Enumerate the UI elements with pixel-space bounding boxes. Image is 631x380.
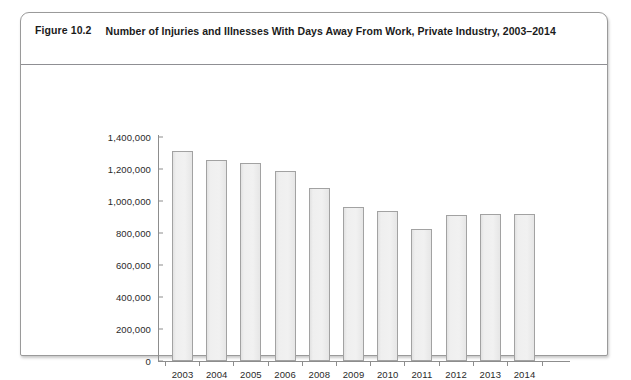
bar-2013 — [480, 214, 501, 361]
y-axis-tick-label: 600,000 — [116, 260, 158, 271]
x-axis-tick-label: 2012 — [445, 369, 467, 380]
x-axis-tick-mark — [542, 361, 543, 366]
x-axis-tick-mark — [404, 361, 405, 366]
x-axis-tick-label: 2003 — [172, 369, 194, 380]
bar-2014 — [514, 214, 535, 361]
x-axis-tick-mark — [473, 361, 474, 366]
x-axis-tick-mark — [302, 361, 303, 366]
bar-2005 — [240, 163, 261, 361]
plot-area: 0200,000400,000600,000800,0001,000,0001,… — [158, 137, 568, 361]
x-axis-tick-label: 2006 — [274, 369, 296, 380]
x-axis-tick-mark — [199, 361, 200, 366]
y-axis-tick-mark — [158, 297, 163, 298]
y-axis-tick-label: 800,000 — [116, 228, 158, 239]
x-axis-tick-label: 2010 — [377, 369, 399, 380]
bar-2008 — [309, 188, 330, 361]
x-axis-tick-mark — [507, 361, 508, 366]
y-axis-tick-label: 1,000,000 — [108, 196, 158, 207]
y-axis-tick-label: 200,000 — [116, 324, 158, 335]
y-axis-tick-mark — [158, 201, 163, 202]
y-axis-tick-mark — [158, 265, 163, 266]
figure-panel: Figure 10.2 Number of Injuries and Illne… — [20, 12, 608, 356]
bar-2009 — [343, 207, 364, 361]
figure-title: Number of Injuries and Illnesses With Da… — [106, 24, 556, 39]
bar-chart: 0200,000400,000600,000800,0001,000,0001,… — [59, 93, 589, 355]
bar-2006 — [275, 171, 296, 361]
y-axis-tick-label: 1,200,000 — [108, 164, 158, 175]
y-axis-tick-mark — [158, 361, 163, 362]
x-axis-tick-mark — [439, 361, 440, 366]
x-axis-line — [158, 361, 570, 362]
y-axis-tick-label: 1,400,000 — [108, 132, 158, 143]
bar-2003 — [172, 151, 193, 361]
figure-label: Figure 10.2 — [35, 24, 92, 36]
x-axis-tick-label: 2008 — [309, 369, 331, 380]
plot-container: 0200,000400,000600,000800,0001,000,0001,… — [21, 65, 607, 355]
x-axis-tick-label: 2004 — [206, 369, 228, 380]
x-axis-tick-mark — [165, 361, 166, 366]
x-axis-tick-label: 2013 — [480, 369, 502, 380]
y-axis-tick-mark — [158, 329, 163, 330]
y-axis-tick-mark — [158, 137, 163, 138]
x-axis-tick-mark — [370, 361, 371, 366]
bar-2011 — [411, 229, 432, 361]
x-axis-tick-mark — [268, 361, 269, 366]
x-axis-tick-label: 2009 — [343, 369, 365, 380]
figure-header: Figure 10.2 Number of Injuries and Illne… — [21, 13, 607, 64]
x-axis-tick-label: 2011 — [411, 369, 432, 380]
x-axis-tick-label: 2014 — [514, 369, 536, 380]
y-axis-tick-label: 400,000 — [116, 292, 158, 303]
bar-2004 — [206, 160, 227, 361]
y-axis-tick-mark — [158, 169, 163, 170]
x-axis-tick-mark — [233, 361, 234, 366]
y-axis-tick-label: 0 — [146, 356, 158, 367]
x-axis-tick-label: 2005 — [240, 369, 262, 380]
bar-2012 — [446, 215, 467, 361]
bar-2010 — [377, 211, 398, 361]
x-axis-tick-mark — [336, 361, 337, 366]
y-axis-tick-mark — [158, 233, 163, 234]
